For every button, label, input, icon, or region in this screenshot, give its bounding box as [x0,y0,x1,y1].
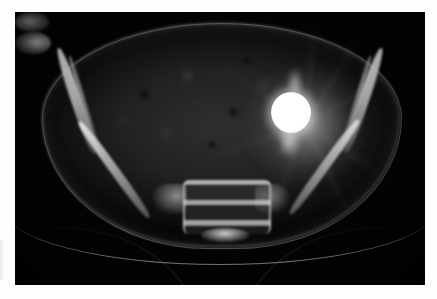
image-vignette [15,12,425,285]
image-caption [0,0,1,1]
frame-margin-right [425,0,437,299]
sheet-edge-sliver [0,240,4,280]
frame-margin-top [0,0,437,12]
ct-image-viewer [0,0,437,299]
frame-margin-bottom [0,285,437,299]
ct-scan-canvas [15,12,425,285]
